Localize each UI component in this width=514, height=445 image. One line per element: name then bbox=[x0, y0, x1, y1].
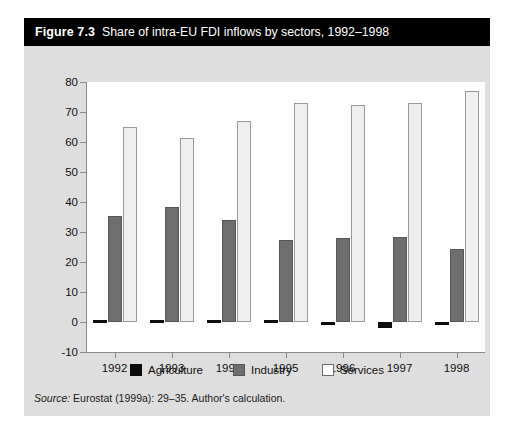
y-axis-tick-label: -10 bbox=[44, 346, 78, 358]
bar-industry-1992 bbox=[108, 216, 122, 323]
y-axis-tick-mark bbox=[80, 82, 86, 83]
bar-agriculture-1997 bbox=[378, 322, 392, 328]
x-axis-tick-mark bbox=[457, 353, 458, 358]
x-axis-tick-mark bbox=[172, 353, 173, 358]
legend-label-services: Services bbox=[340, 364, 384, 376]
source-text: Eurostat (1999a): 29–35. Author's calcul… bbox=[70, 392, 285, 404]
y-axis-tick-mark bbox=[80, 292, 86, 293]
y-axis-tick-label: 70 bbox=[44, 106, 78, 118]
bar-services-1997 bbox=[408, 103, 422, 322]
y-axis-tick-label: 80 bbox=[44, 76, 78, 88]
bar-services-1996 bbox=[351, 105, 365, 323]
bar-agriculture-1994 bbox=[207, 320, 221, 323]
bar-industry-1995 bbox=[279, 240, 293, 323]
y-axis-tick-mark bbox=[80, 232, 86, 233]
bar-industry-1996 bbox=[336, 238, 350, 322]
y-axis-tick-label: 10 bbox=[44, 286, 78, 298]
legend-item-services: Services bbox=[322, 364, 384, 376]
bar-agriculture-1998 bbox=[435, 322, 449, 325]
figure-title-bar: Figure 7.3 Share of intra-EU FDI inflows… bbox=[24, 18, 490, 46]
y-axis-tick-mark bbox=[80, 142, 86, 143]
legend-swatch-services bbox=[322, 364, 334, 376]
bar-services-1993 bbox=[180, 138, 194, 323]
bar-agriculture-1992 bbox=[93, 320, 107, 323]
y-axis-tick-label: 20 bbox=[44, 256, 78, 268]
legend-swatch-industry bbox=[233, 364, 245, 376]
y-axis-tick-mark bbox=[80, 352, 86, 353]
y-axis-tick-mark bbox=[80, 322, 86, 323]
legend-label-agriculture: Agriculture bbox=[148, 364, 203, 376]
bar-industry-1997 bbox=[393, 237, 407, 323]
figure-caption: Share of intra-EU FDI inflows by sectors… bbox=[102, 25, 389, 39]
y-axis-tick-label: 0 bbox=[44, 316, 78, 328]
bar-agriculture-1995 bbox=[264, 320, 278, 323]
bar-agriculture-1993 bbox=[150, 320, 164, 323]
source-label: Source: bbox=[34, 392, 70, 404]
x-axis-tick-mark bbox=[400, 353, 401, 358]
chart-panel: -1001020304050607080 1992199319941995199… bbox=[24, 46, 490, 416]
y-axis-tick-label: 50 bbox=[44, 166, 78, 178]
x-axis-tick-mark bbox=[286, 353, 287, 358]
figure-container: Figure 7.3 Share of intra-EU FDI inflows… bbox=[0, 0, 514, 445]
y-axis-tick-label: 40 bbox=[44, 196, 78, 208]
bar-industry-1993 bbox=[165, 207, 179, 323]
bar-services-1995 bbox=[294, 103, 308, 322]
legend-swatch-agriculture bbox=[130, 364, 142, 376]
y-axis-tick-mark bbox=[80, 112, 86, 113]
legend-item-agriculture: Agriculture bbox=[130, 364, 203, 376]
chart-legend: AgricultureIndustryServices bbox=[24, 364, 490, 376]
x-axis-tick-mark bbox=[343, 353, 344, 358]
figure-number: Figure 7.3 bbox=[35, 25, 95, 39]
y-axis-tick-label: 60 bbox=[44, 136, 78, 148]
y-axis-tick-mark bbox=[80, 172, 86, 173]
bar-industry-1994 bbox=[222, 220, 236, 322]
legend-label-industry: Industry bbox=[251, 364, 292, 376]
x-axis-tick-mark bbox=[115, 353, 116, 358]
bar-services-1992 bbox=[123, 127, 137, 322]
bar-services-1998 bbox=[465, 91, 479, 322]
legend-item-industry: Industry bbox=[233, 364, 292, 376]
y-axis-tick-label: 30 bbox=[44, 226, 78, 238]
x-axis-tick-mark bbox=[229, 353, 230, 358]
y-axis-labels: -1001020304050607080 bbox=[38, 46, 78, 416]
bar-services-1994 bbox=[237, 121, 251, 322]
y-axis-tick-mark bbox=[80, 262, 86, 263]
bar-agriculture-1996 bbox=[321, 322, 335, 325]
source-note: Source: Eurostat (1999a): 29–35. Author'… bbox=[34, 392, 285, 404]
y-axis-tick-mark bbox=[80, 202, 86, 203]
bar-industry-1998 bbox=[450, 249, 464, 323]
